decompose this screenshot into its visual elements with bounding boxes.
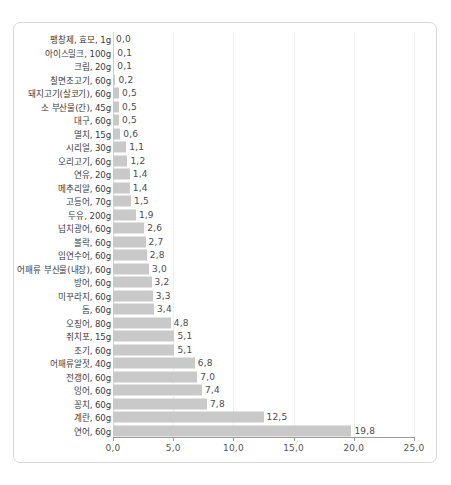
bar-value-label: 3,2 <box>155 277 170 287</box>
chart-row: 잉어, 60g7,4 <box>14 383 438 397</box>
category-label: 어패류 부산물(내장), 60g <box>17 263 111 275</box>
bar <box>113 223 144 234</box>
chart-bar-rows: 팽창제, 효모, 1g0,0아이스밀크, 100g0,1크림, 20g0,1칠면… <box>14 32 438 437</box>
tick-mark-0 <box>113 437 114 441</box>
tick-mark-25 <box>414 437 415 441</box>
category-label: 시리얼, 30g <box>66 141 111 153</box>
x-axis-tick-label: 20,0 <box>343 443 364 453</box>
chart-row: 쥐치포, 15g5,1 <box>14 329 438 343</box>
bar-value-label: 5,1 <box>177 345 192 355</box>
bar <box>113 398 207 409</box>
bar-value-label: 1,4 <box>133 169 148 179</box>
bar-value-label: 2,6 <box>147 223 162 233</box>
chart-row: 돼지고기(살코기), 60g0,5 <box>14 86 438 100</box>
chart-row: 두유, 200g1,9 <box>14 208 438 222</box>
bar <box>113 196 131 207</box>
category-label: 쥐치포, 15g <box>66 330 111 342</box>
bar-value-label: 0,1 <box>117 48 132 58</box>
category-label: 오리고기, 60g <box>58 155 111 167</box>
bar-value-label: 1,4 <box>133 183 148 193</box>
bar <box>113 331 174 342</box>
bar <box>113 290 153 301</box>
bar <box>113 128 120 139</box>
category-label: 미꾸라지, 60g <box>58 290 111 302</box>
category-label: 꽁치, 60g <box>74 398 111 410</box>
bar-value-label: 3,3 <box>156 291 171 301</box>
bar-value-label: 2,8 <box>150 250 165 260</box>
category-label: 계란, 60g <box>74 411 111 423</box>
chart-row: 칠면조고기, 60g0,2 <box>14 73 438 87</box>
bar <box>113 304 154 315</box>
chart-row: 오징어, 80g4,8 <box>14 316 438 330</box>
tick-mark-15 <box>294 437 295 441</box>
category-label: 크림, 20g <box>74 60 111 72</box>
bar <box>113 236 146 247</box>
bar-value-label: 0,5 <box>122 115 137 125</box>
category-label: 임연수어, 60g <box>58 249 111 261</box>
chart-row: 미꾸라지, 60g3,3 <box>14 289 438 303</box>
category-label: 대구, 60g <box>74 114 111 126</box>
bar <box>113 155 127 166</box>
bar <box>113 358 195 369</box>
category-label: 오징어, 80g <box>66 317 111 329</box>
bar <box>113 263 149 274</box>
chart-row: 볼락, 60g2,7 <box>14 235 438 249</box>
bar-value-label: 0,2 <box>118 75 133 85</box>
bar <box>113 182 130 193</box>
bar <box>113 344 174 355</box>
category-label: 아이스밀크, 100g <box>45 47 111 59</box>
chart-row: 넙치광어, 60g2,6 <box>14 221 438 235</box>
bar-value-label: 4,8 <box>174 318 189 328</box>
x-axis-tick-label: 10,0 <box>223 443 244 453</box>
category-label: 칠면조고기, 60g <box>50 74 111 86</box>
category-label: 잉어, 60g <box>74 384 111 396</box>
chart-row: 어패류 부산물(내장), 60g3,0 <box>14 262 438 276</box>
bar <box>113 47 114 58</box>
chart-row: 돔, 60g3,4 <box>14 302 438 316</box>
category-label: 메추리알, 60g <box>58 182 111 194</box>
chart-row: 오리고기, 60g1,2 <box>14 154 438 168</box>
bar-value-label: 0,5 <box>122 102 137 112</box>
category-label: 두유, 200g <box>68 209 111 221</box>
bar <box>113 209 136 220</box>
bar-value-label: 7,0 <box>200 372 215 382</box>
chart-row: 전갱이, 60g7,0 <box>14 370 438 384</box>
category-label: 돼지고기(살코기), 60g <box>28 87 111 99</box>
chart-row: 멸치, 15g0,6 <box>14 127 438 141</box>
chart-row: 고등어, 70g1,5 <box>14 194 438 208</box>
category-label: 멸치, 15g <box>74 128 111 140</box>
chart-row: 크림, 20g0,1 <box>14 59 438 73</box>
x-axis-line <box>113 437 415 438</box>
bar-value-label: 5,1 <box>177 331 192 341</box>
category-label: 연어, 60g <box>74 425 111 437</box>
tick-mark-10 <box>233 437 234 441</box>
chart-panel: 팽창제, 효모, 1g0,0아이스밀크, 100g0,1크림, 20g0,1칠면… <box>13 22 437 463</box>
bar <box>113 371 197 382</box>
chart-row: 연어, 60g19,8 <box>14 424 438 438</box>
bar-value-label: 1,9 <box>139 210 154 220</box>
bar <box>113 412 264 423</box>
chart-row: 계란, 60g12,5 <box>14 410 438 424</box>
category-label: 소 부산물(간), 45g <box>41 101 111 113</box>
category-label: 어패류알젓, 40g <box>50 357 111 369</box>
bar-value-label: 12,5 <box>267 412 288 422</box>
bar-value-label: 1,5 <box>134 196 149 206</box>
chart-row: 소 부산물(간), 45g0,5 <box>14 100 438 114</box>
x-axis-tick-labels: 0,05,010,015,020,025,0 <box>14 443 438 459</box>
bar-value-label: 1,1 <box>129 142 144 152</box>
bar-value-label: 2,7 <box>149 237 164 247</box>
horizontal-bar-chart: 팽창제, 효모, 1g0,0아이스밀크, 100g0,1크림, 20g0,1칠면… <box>14 23 438 464</box>
bar <box>113 88 119 99</box>
bar-value-label: 3,0 <box>152 264 167 274</box>
chart-row: 시리얼, 30g1,1 <box>14 140 438 154</box>
chart-row: 아이스밀크, 100g0,1 <box>14 46 438 60</box>
tick-mark-20 <box>354 437 355 441</box>
category-label: 볼락, 60g <box>74 236 111 248</box>
bar-value-label: 19,8 <box>354 426 375 436</box>
bar-value-label: 7,8 <box>210 399 225 409</box>
bar <box>113 169 130 180</box>
x-axis-tick-label: 25,0 <box>404 443 425 453</box>
chart-row: 꽁치, 60g7,8 <box>14 397 438 411</box>
bar-value-label: 0,5 <box>122 88 137 98</box>
bar <box>113 61 114 72</box>
